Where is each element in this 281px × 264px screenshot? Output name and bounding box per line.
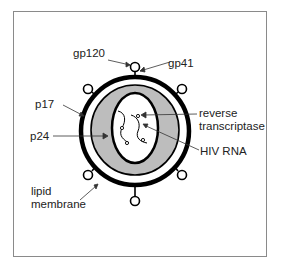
label-lipid-line2: membrane (31, 198, 86, 211)
label-rt-line1: reverse (199, 107, 237, 120)
label-gp41: gp41 (168, 57, 194, 70)
label-gp120: gp120 (73, 47, 105, 60)
label-rt-line2: transcriptase (199, 120, 265, 133)
label-p17: p17 (35, 98, 54, 111)
label-p24: p24 (30, 130, 49, 143)
label-hiv-rna: HIV RNA (200, 145, 247, 158)
label-lipid-line1: lipid (31, 185, 51, 198)
